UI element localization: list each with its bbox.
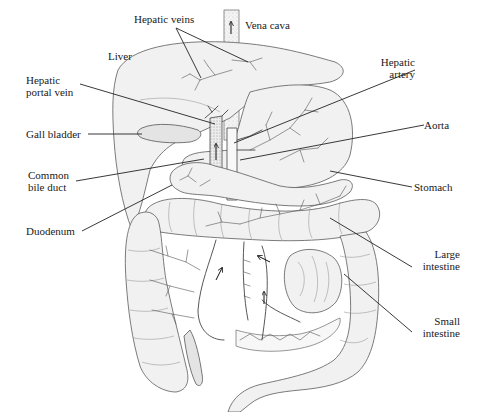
label-stomach: Stomach (414, 181, 453, 193)
mesenteric-arrow-center (258, 256, 270, 262)
label-hepatic-artery: Hepatic artery (355, 56, 415, 80)
label-gall-bladder: Gall bladder (26, 128, 81, 140)
label-hepatic-veins: Hepatic veins (134, 13, 194, 25)
large-intestine (125, 186, 379, 412)
label-aorta: Aorta (424, 119, 449, 131)
mesenteric-arrow-left (216, 268, 222, 280)
small-intestine (236, 249, 342, 351)
label-small-intestine: Small intestine (405, 315, 460, 339)
label-vena-cava: Vena cava (245, 19, 290, 31)
label-duodenum: Duodenum (26, 225, 75, 237)
label-large-intestine: Large intestine (405, 248, 460, 272)
label-common-bile-duct: Common bile duct (28, 169, 69, 193)
label-liver: Liver (108, 50, 132, 62)
label-hepatic-portal-vein: Hepatic portal vein (26, 74, 73, 98)
